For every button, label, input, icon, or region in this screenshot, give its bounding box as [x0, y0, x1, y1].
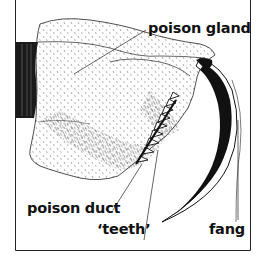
- label-poison-duct: poison duct: [27, 201, 120, 216]
- diagram: poison gland poison duct ‘teeth’ fang: [0, 0, 258, 264]
- chelicera-body: [30, 19, 215, 180]
- label-teeth: ‘teeth’: [97, 222, 150, 237]
- body-stump: [16, 42, 38, 118]
- label-poison-gland: poison gland: [148, 21, 251, 36]
- label-fang: fang: [209, 222, 245, 237]
